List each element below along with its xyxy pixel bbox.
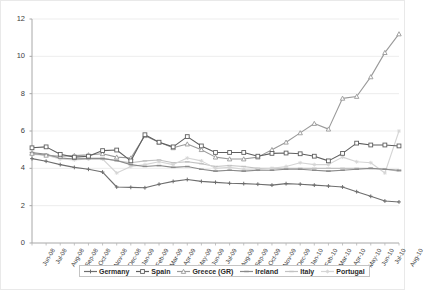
data-point xyxy=(227,157,231,161)
legend-label: Ireland xyxy=(255,268,278,275)
legend-item-germany[interactable]: Germany xyxy=(84,267,129,276)
legend-swatch-icon xyxy=(136,267,149,276)
data-point xyxy=(383,143,387,147)
x-tick-label: Aug-10 xyxy=(408,247,424,268)
data-point xyxy=(185,135,189,139)
series-greece-gr xyxy=(30,32,401,161)
legend-label: Italy xyxy=(300,268,314,275)
data-point xyxy=(397,32,401,36)
data-point xyxy=(242,151,246,155)
data-point xyxy=(327,159,331,163)
data-point xyxy=(312,121,316,125)
legend-swatch-icon xyxy=(285,267,298,276)
legend-item-greece-gr[interactable]: Greece (GR) xyxy=(177,267,233,276)
data-point xyxy=(30,146,34,150)
data-point xyxy=(341,152,345,156)
legend-marker xyxy=(182,269,186,273)
series-line xyxy=(32,34,399,159)
series-germany xyxy=(30,157,401,204)
data-point xyxy=(242,157,246,161)
data-point xyxy=(228,151,232,155)
data-point xyxy=(298,152,302,156)
data-point xyxy=(213,155,217,159)
data-point xyxy=(256,154,260,158)
legend-label: Germany xyxy=(99,268,129,275)
legend-label: Greece (GR) xyxy=(192,268,233,275)
data-point xyxy=(185,142,189,146)
data-point xyxy=(270,152,274,156)
data-point xyxy=(129,159,133,163)
data-point xyxy=(355,141,359,145)
data-point xyxy=(397,144,401,148)
series-layer xyxy=(30,32,402,204)
legend: GermanySpainGreece (GR)IrelandItalyPortu… xyxy=(79,265,370,277)
gridlines xyxy=(32,19,399,243)
data-point xyxy=(143,133,147,137)
axis-lines xyxy=(30,19,400,246)
legend-item-spain[interactable]: Spain xyxy=(136,267,170,276)
data-point xyxy=(284,151,288,155)
legend-item-portugal[interactable]: Portugal xyxy=(321,267,364,276)
data-point xyxy=(312,154,316,158)
legend-item-ireland[interactable]: Ireland xyxy=(240,267,278,276)
data-point xyxy=(157,140,161,144)
data-point xyxy=(369,143,373,147)
legend-label: Spain xyxy=(151,268,170,275)
data-point xyxy=(171,145,175,149)
legend-swatch-icon xyxy=(321,267,334,276)
plot-area xyxy=(1,1,406,290)
data-point xyxy=(114,155,118,159)
data-point xyxy=(58,152,62,156)
series-line xyxy=(32,159,399,202)
data-point xyxy=(115,148,119,152)
legend-swatch-icon xyxy=(84,267,97,276)
legend-swatch-icon xyxy=(240,267,253,276)
data-point xyxy=(214,151,218,155)
legend-item-italy[interactable]: Italy xyxy=(285,267,314,276)
data-point xyxy=(44,145,48,149)
legend-label: Portugal xyxy=(336,268,364,275)
data-point xyxy=(101,149,105,153)
data-point xyxy=(199,144,203,148)
legend-marker xyxy=(141,269,145,273)
data-point xyxy=(87,154,91,158)
data-point xyxy=(270,147,274,151)
data-point xyxy=(326,127,330,131)
data-point xyxy=(72,155,76,159)
data-point xyxy=(340,96,344,100)
legend-swatch-icon xyxy=(177,267,190,276)
